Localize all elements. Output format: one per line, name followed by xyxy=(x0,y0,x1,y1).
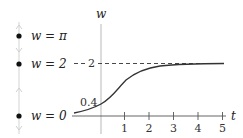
x-axis-label: t xyxy=(231,110,236,122)
asymptote-label: 2 xyxy=(87,58,96,69)
y-axis-label: w xyxy=(96,8,106,20)
equilibrium-label-2: w = 2 xyxy=(31,58,67,70)
x-tick-label: 2 xyxy=(146,123,153,134)
x-tick-label: 5 xyxy=(219,123,226,134)
x-tick-label: 3 xyxy=(170,123,177,134)
equilibrium-label-pi: w = π xyxy=(31,30,67,42)
equilibrium-dot-2 xyxy=(16,61,21,66)
equilibrium-dot-pi xyxy=(16,33,21,38)
x-tick-label: 1 xyxy=(121,123,128,134)
equilibrium-dot-0 xyxy=(16,113,21,118)
initial-value-label: 0.4 xyxy=(80,97,98,108)
equilibrium-label-0: w = 0 xyxy=(31,110,67,122)
x-tick-label: 4 xyxy=(195,123,202,134)
